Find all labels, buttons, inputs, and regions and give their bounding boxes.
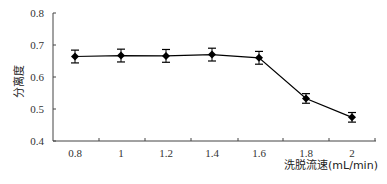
x-tick-label: 1.4 bbox=[205, 147, 219, 159]
data-point bbox=[71, 50, 79, 63]
x-axis: 0.811.21.41.61.82 bbox=[53, 138, 376, 159]
y-tick-label: 0.4 bbox=[30, 135, 44, 147]
data-point bbox=[208, 48, 216, 61]
data-point bbox=[162, 49, 170, 62]
x-tick-label: 1.8 bbox=[299, 147, 313, 159]
data-series bbox=[71, 48, 356, 122]
data-point bbox=[348, 113, 356, 123]
data-point bbox=[117, 49, 125, 62]
x-axis-title: 洗脱流速(mL/min) bbox=[284, 158, 378, 172]
data-point bbox=[302, 94, 310, 104]
line-chart: 0.40.50.60.70.8 0.811.21.41.61.82 分离度 洗脱… bbox=[0, 0, 387, 184]
diamond-marker-icon bbox=[117, 52, 125, 60]
diamond-marker-icon bbox=[71, 53, 79, 61]
x-tick-label: 1.2 bbox=[159, 147, 173, 159]
x-tick-label: 1 bbox=[118, 147, 124, 159]
diamond-marker-icon bbox=[162, 52, 170, 60]
y-axis-title: 分离度 bbox=[12, 65, 26, 98]
y-tick-label: 0.6 bbox=[30, 71, 44, 83]
diamond-marker-icon bbox=[348, 113, 356, 121]
x-tick-label: 0.8 bbox=[68, 147, 82, 159]
diamond-marker-icon bbox=[208, 51, 216, 59]
y-axis: 0.40.50.60.70.8 bbox=[30, 7, 56, 147]
data-point bbox=[255, 51, 263, 64]
y-tick-label: 0.8 bbox=[30, 7, 44, 19]
x-tick-label: 1.6 bbox=[252, 147, 266, 159]
x-tick-label: 2 bbox=[349, 147, 355, 159]
y-tick-label: 0.5 bbox=[30, 103, 44, 115]
y-tick-label: 0.7 bbox=[30, 39, 44, 51]
